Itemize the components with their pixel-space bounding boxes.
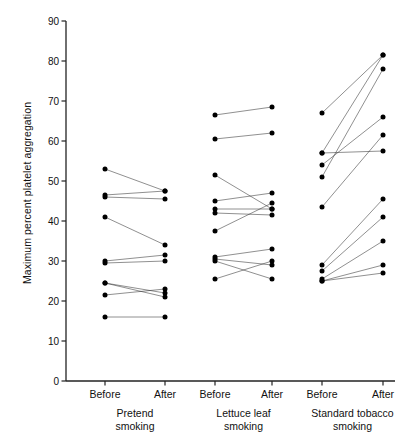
- data-point-after: [381, 263, 386, 268]
- pair-connector: [105, 169, 165, 191]
- y-tick-label: 60: [48, 136, 60, 147]
- y-tick-label: 30: [48, 256, 60, 267]
- data-point-before: [213, 113, 218, 118]
- y-tick-label: 20: [48, 296, 60, 307]
- data-point-after: [163, 243, 168, 248]
- y-tick-label: 10: [48, 336, 60, 347]
- pair-connector: [215, 249, 272, 257]
- pair-connector: [215, 259, 272, 265]
- x-label-before: Before: [200, 388, 231, 400]
- data-point-after: [270, 131, 275, 136]
- platelet-aggregation-chart: 0102030405060708090BeforeAfterPretendsmo…: [0, 0, 406, 444]
- y-tick-label: 80: [48, 56, 60, 67]
- group-label: Standard tobacco: [311, 407, 393, 419]
- data-point-before: [213, 259, 218, 264]
- data-point-after: [381, 53, 386, 58]
- data-point-after: [381, 215, 386, 220]
- figure-container: Maximum percent platelet aggregation 010…: [0, 0, 406, 444]
- pair-connector: [322, 273, 383, 281]
- group-label: smoking: [224, 420, 263, 432]
- pair-connector: [215, 133, 272, 139]
- y-tick-label: 0: [53, 376, 59, 387]
- data-point-before: [320, 151, 325, 156]
- x-label-before: Before: [307, 388, 338, 400]
- y-tick-label: 70: [48, 96, 60, 107]
- group-label: Lettuce leaf: [216, 407, 270, 419]
- data-point-before: [213, 211, 218, 216]
- pair-connector: [105, 283, 165, 293]
- data-point-after: [381, 271, 386, 276]
- x-label-after: After: [372, 388, 395, 400]
- data-point-before: [320, 175, 325, 180]
- data-point-after: [381, 133, 386, 138]
- data-point-before: [213, 199, 218, 204]
- data-point-after: [270, 207, 275, 212]
- pair-connector: [322, 135, 383, 207]
- data-point-after: [163, 197, 168, 202]
- pair-connector: [322, 117, 383, 165]
- pair-connector: [322, 217, 383, 271]
- y-tick-label: 40: [48, 216, 60, 227]
- data-point-after: [163, 253, 168, 258]
- data-point-before: [103, 195, 108, 200]
- data-point-before: [213, 277, 218, 282]
- group-label: smoking: [333, 420, 372, 432]
- data-point-after: [381, 149, 386, 154]
- data-point-before: [213, 229, 218, 234]
- pair-connector: [215, 213, 272, 215]
- data-point-before: [320, 279, 325, 284]
- data-point-after: [381, 197, 386, 202]
- data-point-before: [320, 205, 325, 210]
- pair-connector: [215, 203, 272, 231]
- data-point-before: [213, 173, 218, 178]
- data-point-before: [103, 293, 108, 298]
- pair-connector: [322, 199, 383, 265]
- data-point-before: [320, 263, 325, 268]
- data-point-after: [270, 191, 275, 196]
- pair-connector: [105, 255, 165, 261]
- data-point-before: [103, 215, 108, 220]
- data-point-after: [381, 239, 386, 244]
- data-point-after: [163, 295, 168, 300]
- data-point-after: [270, 247, 275, 252]
- data-point-before: [103, 281, 108, 286]
- pair-connector: [215, 193, 272, 201]
- data-point-after: [270, 201, 275, 206]
- pair-connector: [105, 217, 165, 245]
- data-point-before: [103, 261, 108, 266]
- pair-connector: [322, 151, 383, 153]
- pair-connector: [322, 69, 383, 177]
- data-point-before: [320, 269, 325, 274]
- data-point-after: [163, 189, 168, 194]
- data-point-before: [320, 163, 325, 168]
- group-label: smoking: [115, 420, 154, 432]
- pair-connector: [322, 241, 383, 279]
- y-tick-label: 90: [48, 16, 60, 27]
- x-label-after: After: [154, 388, 177, 400]
- data-point-after: [163, 287, 168, 292]
- data-point-after: [270, 105, 275, 110]
- data-point-after: [381, 67, 386, 72]
- x-label-after: After: [261, 388, 284, 400]
- data-point-before: [103, 167, 108, 172]
- pair-connector: [105, 197, 165, 199]
- pair-connector: [215, 175, 272, 209]
- data-point-after: [163, 315, 168, 320]
- pair-connector: [105, 191, 165, 195]
- pair-connector: [105, 261, 165, 263]
- data-point-after: [381, 115, 386, 120]
- data-point-before: [213, 137, 218, 142]
- data-point-after: [270, 259, 275, 264]
- data-point-after: [270, 213, 275, 218]
- data-point-before: [320, 111, 325, 116]
- y-tick-label: 50: [48, 176, 60, 187]
- x-label-before: Before: [90, 388, 121, 400]
- data-point-before: [103, 315, 108, 320]
- data-point-after: [270, 277, 275, 282]
- data-point-after: [163, 259, 168, 264]
- group-label: Pretend: [117, 407, 154, 419]
- pair-connector: [215, 107, 272, 115]
